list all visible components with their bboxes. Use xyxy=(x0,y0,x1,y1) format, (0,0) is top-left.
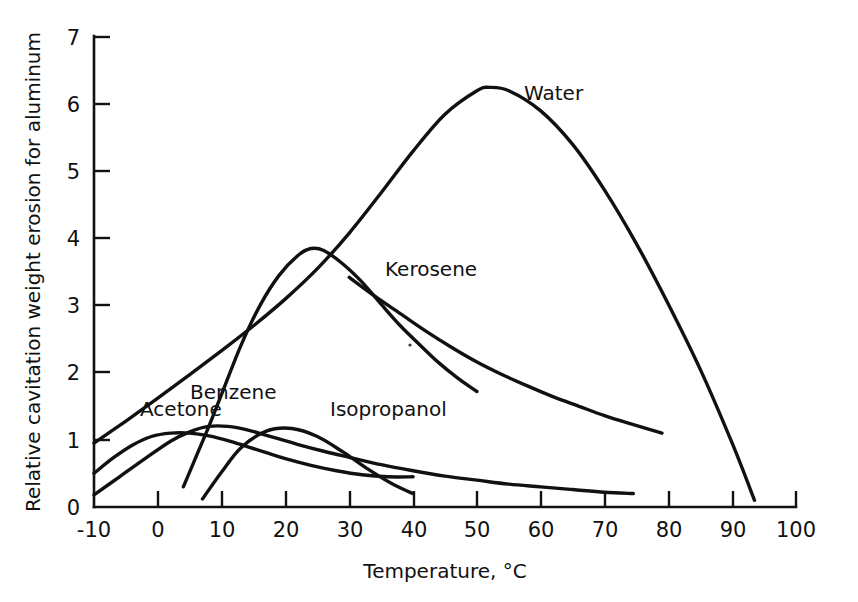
y-tick-label: 3 xyxy=(67,294,80,318)
x-axis-title: Temperature, °C xyxy=(362,559,526,583)
series-label-kerosene: Kerosene xyxy=(385,257,477,281)
y-tick-label: 5 xyxy=(67,160,80,184)
x-tick-label: 0 xyxy=(151,518,164,542)
series-label-isopropanol: Isopropanol xyxy=(330,397,447,421)
x-tick-label: 100 xyxy=(776,518,816,542)
series-label-water: Water xyxy=(524,81,584,105)
y-tick-labels: 7 6 5 4 3 2 1 0 xyxy=(67,26,80,520)
series-curve-isopropanol xyxy=(94,426,633,495)
y-tick-label: 4 xyxy=(67,227,80,251)
x-axis-ticks xyxy=(158,491,796,507)
y-tick-label: 7 xyxy=(67,26,80,50)
y-tick-label: 2 xyxy=(67,361,80,385)
x-tick-label: -10 xyxy=(77,518,111,542)
x-tick-label: 20 xyxy=(273,518,300,542)
x-tick-label: 80 xyxy=(656,518,683,542)
x-tick-label: 30 xyxy=(337,518,364,542)
x-tick-label: 50 xyxy=(464,518,491,542)
series-label-acetone: Acetone xyxy=(140,397,222,421)
x-tick-label: 60 xyxy=(528,518,555,542)
curve-labels: Water Benzene Kerosene Acetone Isopropan… xyxy=(140,81,584,421)
x-tick-label: 70 xyxy=(592,518,619,542)
series-curve-benzene xyxy=(183,248,477,487)
x-tick-label: 40 xyxy=(401,518,428,542)
series-curve-water xyxy=(94,87,755,500)
x-tick-label: 90 xyxy=(720,518,747,542)
y-tick-label: 6 xyxy=(67,93,80,117)
y-axis-title: Relative cavitation weight erosion for a… xyxy=(21,32,45,512)
y-tick-label: 1 xyxy=(67,429,80,453)
cavitation-erosion-line-chart: 7 6 5 4 3 2 1 0 -10 0 10 20 30 40 50 60 … xyxy=(0,0,858,602)
scan-speck xyxy=(408,343,411,346)
y-tick-label: 0 xyxy=(67,496,80,520)
y-axis-ticks xyxy=(94,37,110,440)
x-tick-label: 10 xyxy=(209,518,236,542)
chart-figure: 7 6 5 4 3 2 1 0 -10 0 10 20 30 40 50 60 … xyxy=(0,0,858,602)
data-curves xyxy=(94,87,755,500)
x-tick-labels: -10 0 10 20 30 40 50 60 70 80 90 100 xyxy=(77,518,816,542)
